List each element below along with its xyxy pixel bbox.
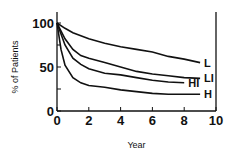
x-tick-label: 0 <box>53 113 60 128</box>
series-label-hi: HI <box>188 77 199 89</box>
y-tick-label: 0 <box>47 104 54 119</box>
series-label-h: H <box>204 88 212 100</box>
x-tick-label: 10 <box>209 113 223 128</box>
series-line-li <box>57 23 200 78</box>
x-tick-label: 6 <box>149 113 156 128</box>
survival-chart: 0246810050100Year% of PatientsLLIHIH <box>0 0 233 157</box>
series-line-l <box>57 23 200 63</box>
x-tick-label: 4 <box>117 113 125 128</box>
series-label-l: L <box>204 57 211 69</box>
series-label-li: LI <box>204 72 214 84</box>
y-tick-label: 100 <box>32 16 54 31</box>
x-tick-label: 8 <box>181 113 188 128</box>
plot-area <box>57 23 200 94</box>
x-axis-label: Year <box>127 140 145 150</box>
x-tick-label: 2 <box>85 113 92 128</box>
axis-labels: 0246810050100Year% of PatientsLLIHIH <box>10 16 223 150</box>
y-axis-label: % of Patients <box>10 40 20 94</box>
y-tick-label: 50 <box>40 60 54 75</box>
